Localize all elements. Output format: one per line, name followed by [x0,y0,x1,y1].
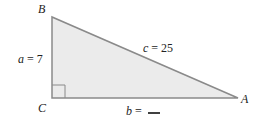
side-b-label: b = [126,104,142,118]
vertex-label-a: A [240,92,249,106]
side-a-label: a = 7 [18,52,43,66]
triangle-diagram: B C A a = 7 c = 25 b = [0,0,259,123]
side-c-label: c = 25 [143,41,173,55]
triangle [52,17,238,98]
vertex-label-b: B [38,2,46,16]
vertex-label-c: C [38,101,47,115]
